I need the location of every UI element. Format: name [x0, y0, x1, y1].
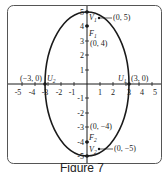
- point-v2: [85, 154, 89, 158]
- svg-text:2: 2: [80, 51, 84, 60]
- figure-caption: Figure 7: [60, 161, 104, 172]
- label-v2: V2: [89, 145, 97, 155]
- coord-f2: (0, −4): [90, 122, 112, 131]
- coord-v1: (0, 5): [113, 13, 131, 22]
- svg-text:4: 4: [140, 88, 144, 97]
- ellipse-figure: -5 -4 -3 -2 -1 1 2 3 4 5 5 4 3 2 1 -1 -2…: [0, 0, 163, 172]
- coord-v2: (0, −5): [114, 144, 136, 153]
- svg-text:1: 1: [80, 66, 84, 75]
- x-tick-labels: -5 -4 -3 -2 -1 1 2 3 4 5: [15, 88, 157, 97]
- coord-f1: (0, 4): [90, 39, 108, 48]
- coord-u2: (−3, 0): [20, 74, 42, 83]
- label-f2: F2: [88, 133, 97, 143]
- label-u2: U2: [47, 74, 56, 84]
- svg-text:-2: -2: [56, 88, 63, 97]
- svg-text:2: 2: [111, 88, 115, 97]
- label-u1: U1: [118, 74, 127, 84]
- svg-text:5: 5: [153, 88, 157, 97]
- coord-u1: (3, 0): [131, 74, 149, 83]
- svg-text:-1: -1: [77, 94, 84, 103]
- svg-text:1: 1: [98, 88, 102, 97]
- label-v1: V1: [89, 13, 97, 23]
- svg-text:-3: -3: [77, 123, 84, 132]
- svg-text:-5: -5: [15, 88, 22, 97]
- svg-text:-4: -4: [77, 138, 84, 147]
- svg-text:-4: -4: [29, 88, 36, 97]
- svg-text:-1: -1: [69, 88, 76, 97]
- svg-text:-2: -2: [77, 109, 84, 118]
- svg-text:4: 4: [80, 22, 84, 31]
- svg-text:3: 3: [80, 37, 84, 46]
- label-f1: F1: [88, 29, 97, 39]
- point-f1: [85, 24, 89, 28]
